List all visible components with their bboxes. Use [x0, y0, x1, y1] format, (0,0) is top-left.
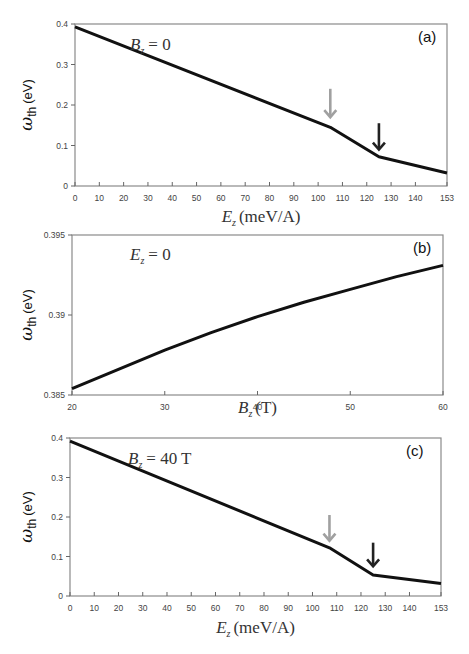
x-tick-label: 60 [211, 603, 221, 613]
figure: 00.10.20.30.4010203040506070809010011012… [0, 0, 469, 654]
x-tick-label: 130 [378, 603, 392, 613]
y-tick-label: 0.1 [56, 141, 68, 151]
y-tick-label: 0.39 [48, 310, 65, 320]
y-axis-label: ωth(eV) [16, 289, 39, 340]
panel-label: (b) [413, 239, 431, 256]
x-tick-label: 10 [90, 603, 100, 613]
chart-panel-b: 0.3850.390.3952030405060(b)Ez= 0Bz(T)ωth… [16, 230, 448, 419]
x-tick-label: 30 [160, 402, 170, 412]
transition-arrow-icon [367, 543, 379, 567]
y-axis-label: ωth(eV) [16, 491, 39, 542]
x-tick-label: 60 [438, 402, 448, 412]
x-tick-label: 10 [95, 193, 105, 203]
panel-label: (a) [418, 28, 436, 45]
y-tick-label: 0.395 [44, 230, 66, 240]
x-tick-label: 40 [162, 603, 172, 613]
data-line [72, 265, 443, 388]
y-tick-label: 0.4 [56, 19, 68, 29]
x-axis-label: Ez(meV/A) [215, 618, 295, 639]
x-tick-label: 30 [143, 193, 153, 203]
chart-panel-a: 00.10.20.30.4010203040506070809010011012… [16, 19, 454, 228]
x-tick-label: 153 [434, 603, 448, 613]
x-tick-label: 120 [360, 193, 374, 203]
x-tick-label: 50 [346, 402, 356, 412]
x-axis-label: Bz(T) [238, 398, 277, 419]
y-tick-label: 0 [63, 181, 68, 191]
data-line [70, 441, 441, 583]
condition-annotation: Ez= 0 [129, 245, 171, 266]
panel-label: (c) [406, 442, 424, 459]
x-tick-label: 40 [168, 193, 178, 203]
x-tick-label: 90 [284, 603, 294, 613]
x-tick-label: 90 [289, 193, 299, 203]
y-tick-label: 0 [58, 591, 63, 601]
x-tick-label: 50 [192, 193, 202, 203]
transition-arrow-icon [373, 123, 385, 149]
y-tick-label: 0.2 [51, 512, 63, 522]
y-tick-label: 0.1 [51, 552, 63, 562]
transition-arrow-icon [323, 515, 335, 541]
x-tick-label: 20 [67, 402, 77, 412]
y-tick-label: 0.2 [56, 100, 68, 110]
x-tick-label: 20 [114, 603, 124, 613]
chart-panel-c: 00.10.20.30.4010203040506070809010011012… [16, 433, 448, 639]
x-tick-label: 80 [265, 193, 275, 203]
x-tick-label: 50 [187, 603, 197, 613]
x-tick-label: 70 [235, 603, 245, 613]
x-tick-label: 140 [408, 193, 422, 203]
x-tick-label: 100 [305, 603, 319, 613]
x-tick-label: 80 [259, 603, 269, 613]
x-tick-label: 20 [119, 193, 129, 203]
x-tick-label: 30 [138, 603, 148, 613]
y-tick-label: 0.4 [51, 433, 63, 443]
x-tick-label: 140 [402, 603, 416, 613]
x-tick-label: 110 [336, 193, 350, 203]
y-axis-label: ωth(eV) [16, 79, 39, 130]
x-tick-label: 110 [330, 603, 344, 613]
condition-annotation: Bz= 0 [130, 35, 171, 56]
x-tick-label: 0 [73, 193, 78, 203]
plot-frame [72, 235, 443, 395]
x-tick-label: 0 [68, 603, 73, 613]
x-tick-label: 130 [384, 193, 398, 203]
x-axis-label: Ez(meV/A) [221, 207, 301, 228]
y-tick-label: 0.385 [44, 390, 66, 400]
x-tick-label: 100 [311, 193, 325, 203]
x-tick-label: 70 [240, 193, 250, 203]
x-tick-label: 120 [354, 603, 368, 613]
y-tick-label: 0.3 [56, 60, 68, 70]
x-tick-label: 60 [216, 193, 226, 203]
x-tick-label: 153 [440, 193, 454, 203]
condition-annotation: Bz= 40 T [128, 449, 192, 470]
y-tick-label: 0.3 [51, 473, 63, 483]
transition-arrow-icon [324, 89, 336, 117]
